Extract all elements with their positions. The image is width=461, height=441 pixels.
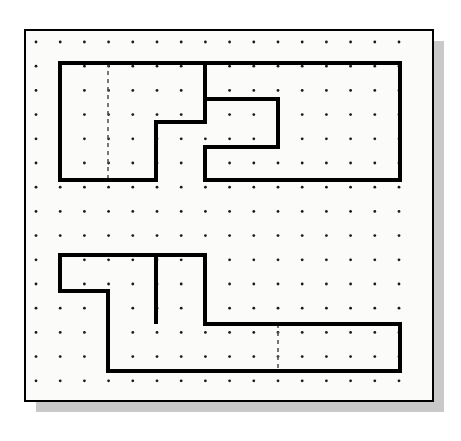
grid-dot [35,162,38,165]
grid-dot [204,355,207,358]
grid-dot [277,41,280,44]
grid-dot [131,162,134,165]
grid-dot [131,41,134,44]
grid-dot [373,379,376,382]
grid-dot [228,283,231,286]
grid-dot [35,137,38,140]
grid-dot [325,307,328,310]
grid-dot [252,234,255,237]
grid-dot [83,113,86,116]
grid-dot [325,137,328,140]
grid-dot [156,355,159,358]
grid-dot [228,258,231,261]
grid-dot [252,113,255,116]
grid-dot [107,258,110,261]
grid-dot [204,41,207,44]
grid-dot [349,65,352,68]
grid-dot [301,234,304,237]
grid-dot [325,41,328,44]
grid-dot [398,41,401,44]
grid-dot [156,89,159,92]
grid-dot [325,331,328,334]
grid-dot [83,41,86,44]
grid-dot [228,41,231,44]
grid-dot [35,234,38,237]
grid-dot [131,89,134,92]
grid-dot [180,379,183,382]
grid-dot [301,210,304,213]
grid-dot [180,186,183,189]
grid-dot [35,379,38,382]
grid-dot [277,234,280,237]
grid-dot [301,137,304,140]
grid-dot [35,258,38,261]
grid-dot [156,234,159,237]
sheet-border [25,30,433,401]
grid-dot [35,355,38,358]
grid-dot [277,379,280,382]
grid-dot [373,113,376,116]
grid-dot [398,186,401,189]
grid-dot [131,283,134,286]
grid-dot [349,41,352,44]
grid-dot [228,210,231,213]
grid-dot [373,210,376,213]
grid-dot [131,65,134,68]
grid-dot [83,355,86,358]
grid-dot [35,186,38,189]
grid-dot [398,379,401,382]
grid-dot [277,283,280,286]
grid-dot [180,307,183,310]
grid-dot [59,379,62,382]
grid-dot [107,379,110,382]
grid-dot [107,210,110,213]
grid-dot [301,307,304,310]
grid-dot [277,307,280,310]
grid-dot [277,186,280,189]
grid-dot [373,137,376,140]
grid-dot [59,234,62,237]
grid-dot [228,137,231,140]
grid-dot [252,65,255,68]
grid-dot [131,331,134,334]
grid-dot [301,355,304,358]
grid-dot [107,283,110,286]
grid-dot [83,234,86,237]
grid-dot [59,210,62,213]
grid-dot [349,355,352,358]
grid-dot [59,331,62,334]
grid-dot [180,89,183,92]
grid-dot [325,258,328,261]
grid-dot [35,113,38,116]
grid-dot [325,162,328,165]
grid-dot [35,65,38,68]
grid-dot [301,65,304,68]
grid-dot [228,186,231,189]
grid-dot [373,331,376,334]
grid-dot [349,137,352,140]
grid-dot [373,89,376,92]
grid-dot [35,283,38,286]
grid-dot [156,41,159,44]
grid-dot [252,331,255,334]
grid-dot [373,307,376,310]
grid-dot [301,331,304,334]
grid-dot [301,186,304,189]
grid-dot [373,355,376,358]
grid-dot [180,355,183,358]
grid-dot [83,186,86,189]
grid-dot [204,137,207,140]
grid-dot [398,283,401,286]
grid-dot [373,283,376,286]
grid-dot [180,258,183,261]
grid-dot [252,307,255,310]
grid-dot [349,331,352,334]
grid-dot [228,234,231,237]
grid-dot [277,162,280,165]
grid-dot [252,258,255,261]
grid-dot [35,307,38,310]
grid-dot [277,89,280,92]
grid-dot [131,113,134,116]
grid-dot [204,331,207,334]
grid-dot [349,89,352,92]
